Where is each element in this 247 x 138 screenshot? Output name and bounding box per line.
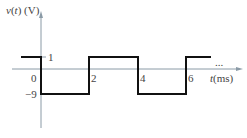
y-axis-arg: t (15, 4, 18, 16)
continuation-ellipsis: ... (215, 57, 223, 68)
x-axis-arrow-icon (236, 67, 243, 71)
y-tick-label-1: 1 (48, 52, 54, 63)
x-tick-label-6: 6 (188, 73, 194, 84)
x-tick-label-4: 4 (140, 73, 146, 84)
y-axis-label: v(t) (V) (6, 5, 39, 16)
x-tick-label-2: 2 (91, 73, 97, 84)
y-axis-unit: (V) (24, 4, 39, 16)
y-axis-arrow-icon (39, 11, 43, 18)
x-tick-label-0: 0 (31, 73, 37, 84)
chart-canvas (0, 0, 247, 138)
y-tick-label-minus-9: −9 (25, 89, 37, 100)
x-axis-label: t(ms) (210, 73, 233, 84)
y-axis-func: v (6, 4, 11, 16)
x-axis-unit: (ms) (213, 72, 233, 84)
